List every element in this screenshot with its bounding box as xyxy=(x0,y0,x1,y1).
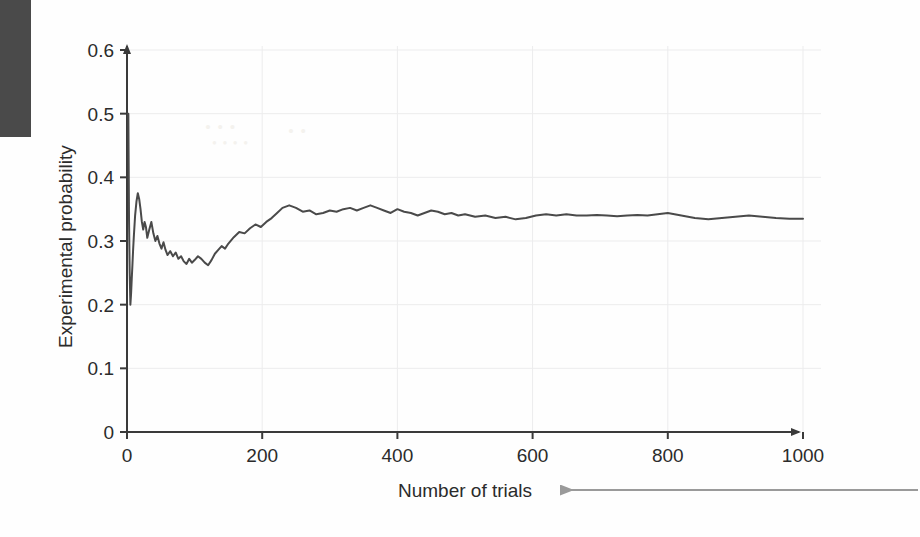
x-axis-tick-label: 200 xyxy=(246,445,278,466)
y-axis-tick-label: 0 xyxy=(103,422,114,443)
data-series-line xyxy=(128,114,803,305)
x-axis-tick-label: 600 xyxy=(517,445,549,466)
x-axis-tick-label: 800 xyxy=(652,445,684,466)
x-axis-tick-labels: 02004006008001000 xyxy=(122,445,824,466)
y-axis-tick-label: 0.1 xyxy=(88,358,114,379)
x-axis-title: Number of trials xyxy=(398,480,532,501)
x-axis-tick-label: 400 xyxy=(382,445,414,466)
line-chart: 00.10.20.30.40.50.6 02004006008001000 Nu… xyxy=(0,0,920,537)
y-axis-tick-label: 0.5 xyxy=(88,104,114,125)
x-axis-tick-label: 0 xyxy=(122,445,133,466)
y-axis-title: Experimental probability xyxy=(55,145,76,348)
y-axis-tick-label: 0.6 xyxy=(88,40,114,61)
y-axis-ticks xyxy=(120,50,127,432)
y-axis-tick-label: 0.2 xyxy=(88,295,114,316)
x-axis-tick-label: 1000 xyxy=(782,445,824,466)
x-axis-ticks xyxy=(127,432,803,439)
y-axis-tick-label: 0.3 xyxy=(88,231,114,252)
y-axis-tick-label: 0.4 xyxy=(88,167,115,188)
scanned-figure: • • • • • • • • • 00.10.20.30.40.50.6 02… xyxy=(0,0,920,537)
y-axis-tick-labels: 00.10.20.30.40.50.6 xyxy=(88,40,115,443)
